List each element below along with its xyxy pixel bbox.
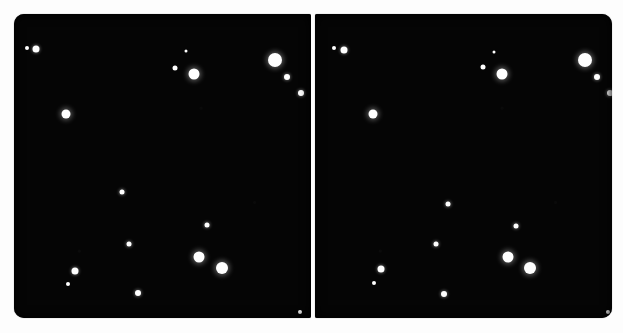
star-point xyxy=(173,66,178,71)
star-point xyxy=(284,74,290,80)
star-point xyxy=(514,224,519,229)
plate-grain-left xyxy=(14,14,311,318)
star-point xyxy=(497,69,508,80)
star-point xyxy=(205,223,210,228)
star-point xyxy=(607,90,612,96)
star-point xyxy=(341,47,348,54)
star-point xyxy=(378,266,385,273)
star-point xyxy=(194,252,205,263)
star-point xyxy=(594,74,600,80)
star-point xyxy=(493,51,496,54)
star-point xyxy=(135,290,141,296)
stereo-pair-figure: Stereo pair of a photographic star field… xyxy=(0,0,623,333)
right-sky-frame xyxy=(315,14,612,318)
star-point xyxy=(332,46,336,50)
star-point xyxy=(372,281,376,285)
star-point xyxy=(578,53,592,67)
frame-vignette-right xyxy=(315,14,612,318)
star-point xyxy=(481,65,486,70)
star-point xyxy=(25,46,29,50)
star-point xyxy=(298,90,304,96)
star-point xyxy=(446,202,451,207)
star-point xyxy=(268,53,282,67)
star-point xyxy=(441,291,447,297)
star-point xyxy=(127,242,132,247)
star-point xyxy=(72,268,79,275)
star-point xyxy=(606,310,610,314)
star-point xyxy=(62,110,71,119)
star-point xyxy=(524,262,536,274)
star-point xyxy=(369,110,378,119)
left-sky-frame xyxy=(14,14,311,318)
star-point xyxy=(185,50,188,53)
plate-grain-right xyxy=(315,14,612,318)
star-point xyxy=(298,310,302,314)
star-point xyxy=(189,69,200,80)
star-point xyxy=(33,46,40,53)
star-point xyxy=(66,282,70,286)
frame-vignette-left xyxy=(14,14,311,318)
star-point xyxy=(434,242,439,247)
star-point xyxy=(216,262,228,274)
star-point xyxy=(120,190,125,195)
star-point xyxy=(503,252,514,263)
